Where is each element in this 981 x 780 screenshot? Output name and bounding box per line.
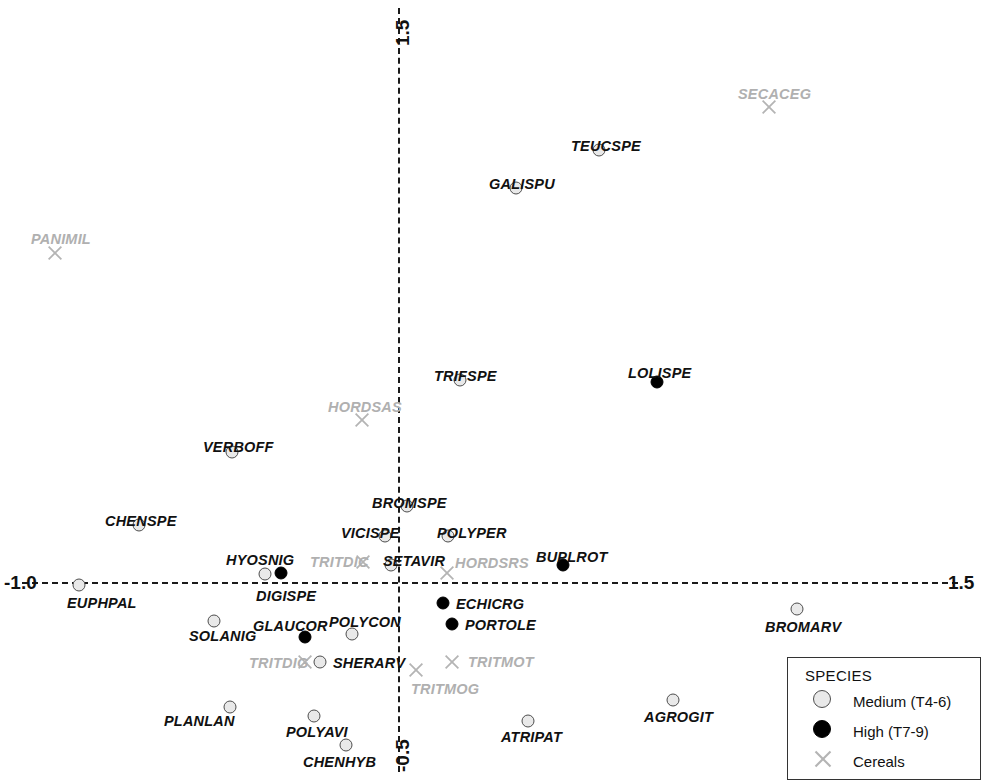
data-point-label-vicispe: VICISPE — [341, 525, 400, 541]
data-point-label-hyosnig: HYOSNIG — [226, 552, 294, 568]
data-point-label-verboff: VERBOFF — [203, 439, 274, 455]
legend-symbol — [813, 720, 831, 742]
y-axis-max-tick-label: 1.5 — [392, 20, 414, 46]
legend-entry-cereals: Cereals — [805, 748, 980, 774]
data-point-label-chenhyb: CHENHYB — [303, 754, 376, 770]
data-point-marker-atripat — [522, 715, 535, 728]
data-point-marker-echicrg — [437, 597, 450, 610]
data-point-label-buplrot: BUPLROT — [536, 549, 607, 565]
data-point-label-tritdig: TRITDIG — [249, 655, 308, 671]
data-point-label-agrogit: AGROGIT — [644, 709, 713, 725]
data-point-label-tritmog: TRITMOG — [411, 681, 479, 697]
data-point-label-setavir: SETAVIR — [383, 553, 445, 569]
x-axis-max-tick-label: 1.5 — [948, 572, 974, 594]
data-point-marker-portole — [446, 618, 459, 631]
data-point-label-solanig: SOLANIG — [189, 628, 256, 644]
data-point-label-planlan: PLANLAN — [164, 713, 235, 729]
data-point-label-polyavi: POLYAVI — [286, 724, 348, 740]
data-point-marker-euphpal — [73, 579, 86, 592]
cross-icon — [813, 749, 833, 769]
data-point-label-echicrg: ECHICRG — [456, 596, 524, 612]
data-point-label-sherarv: SHERARV — [333, 655, 405, 671]
legend-label: Medium (T4-6) — [853, 693, 951, 710]
data-point-label-hordsrs: HORDSRS — [455, 555, 529, 571]
data-point-label-digispe: DIGISPE — [256, 588, 316, 604]
data-point-marker-solanig — [208, 615, 221, 628]
data-point-label-euphpal: EUPHPAL — [67, 595, 137, 611]
y-axis-min-tick-label: -0.5 — [392, 739, 414, 772]
data-point-label-tritdic: TRITDIC — [310, 554, 369, 570]
legend-box: SPECIES Medium (T4-6)High (T7-9)Cereals — [787, 657, 981, 780]
data-point-label-glaucor: GLAUCOR — [253, 618, 328, 634]
data-point-label-bromarv: BROMARV — [765, 619, 841, 635]
data-point-label-lolispe: LOLISPE — [628, 365, 691, 381]
data-point-marker-chenhyb — [340, 739, 353, 752]
data-point-marker-digispe — [275, 567, 288, 580]
filled-circle-icon — [813, 720, 831, 738]
data-point-marker-tritmot — [444, 654, 461, 671]
data-point-label-portole: PORTOLE — [465, 617, 536, 633]
legend-entry-high: High (T7-9) — [805, 718, 980, 744]
data-point-label-trifspe: TRIFSPE — [434, 368, 497, 384]
data-point-marker-bromarv — [791, 603, 804, 616]
horizontal-axis-line — [22, 582, 958, 584]
data-point-label-galispu: GALISPU — [489, 176, 555, 192]
data-point-label-atripat: ATRIPAT — [501, 729, 562, 745]
data-point-marker-planlan — [224, 701, 237, 714]
data-point-marker-agrogit — [667, 694, 680, 707]
data-point-label-chenspe: CHENSPE — [105, 513, 177, 529]
data-point-marker-hyosnig — [259, 568, 272, 581]
data-point-label-polycon: POLYCON — [329, 614, 401, 630]
legend-title: SPECIES — [805, 667, 872, 684]
legend-label: Cereals — [853, 753, 905, 770]
legend-entry-medium: Medium (T4-6) — [805, 688, 980, 714]
legend-symbol — [813, 749, 833, 773]
data-point-label-hordsas: HORDSAS — [328, 399, 402, 415]
legend-label: High (T7-9) — [853, 723, 929, 740]
data-point-label-secaceg: SECACEG — [738, 86, 811, 102]
data-point-marker-panimil — [47, 245, 64, 262]
data-point-label-polyper: POLYPER — [437, 525, 507, 541]
data-point-label-tritmot: TRITMOT — [468, 654, 534, 670]
data-point-marker-polyavi — [308, 710, 321, 723]
data-point-marker-sherarv — [314, 656, 327, 669]
data-point-label-teucspe: TEUCSPE — [571, 138, 641, 154]
legend-symbol — [813, 690, 831, 712]
x-axis-min-tick-label: -1.0 — [4, 572, 37, 594]
data-point-label-bromspe: BROMSPE — [372, 495, 447, 511]
data-point-marker-tritmog — [408, 662, 425, 679]
data-point-marker-hordsrs — [439, 565, 456, 582]
data-point-label-panimil: PANIMIL — [31, 231, 91, 247]
open-circle-icon — [813, 690, 831, 708]
